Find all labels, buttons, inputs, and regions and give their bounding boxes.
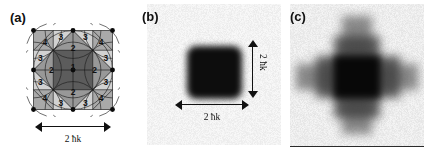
- order-label-2: 2: [92, 65, 97, 75]
- order-label-3: 3: [103, 77, 108, 87]
- diffraction-core-c: [334, 56, 380, 98]
- momentum-space-tiling-diagram: 12222333333334444: [26, 23, 120, 117]
- panel-b: (b) 2 ħk 2 ħk: [145, 0, 286, 158]
- scale-bar-a: 2 ħk: [35, 122, 111, 150]
- panel-c-label: (c): [290, 9, 306, 24]
- arrow-shaft: [181, 104, 243, 105]
- tiling-svg: 12222333333334444: [26, 23, 120, 117]
- scale-bar-a-arrow: [35, 122, 111, 132]
- panel-b-label: (b): [142, 9, 159, 24]
- order-label-3: 3: [58, 98, 63, 108]
- order-label-3: 3: [83, 32, 88, 42]
- order-label-3: 3: [103, 53, 108, 63]
- order-label-3: 3: [83, 98, 88, 108]
- arrow-shaft: [252, 46, 253, 92]
- order-label-3: 3: [58, 32, 63, 42]
- arrow-head-right-icon: [242, 100, 249, 110]
- scale-bar-b-vertical-label: 2 ħk: [258, 54, 268, 71]
- order-label-2: 2: [49, 65, 54, 75]
- panel-c: (c): [286, 0, 427, 158]
- arrow-head-down-icon: [248, 91, 258, 98]
- scale-bar-a-label: 2 ħk: [35, 134, 111, 144]
- scale-bar-b-horizontal: 2 ħk: [175, 100, 249, 126]
- panel-a-label: (a): [10, 10, 26, 25]
- panel-a: (a): [0, 0, 145, 158]
- order-label-3: 3: [38, 53, 43, 63]
- figure-container: (a): [0, 0, 427, 158]
- order-label-4: 4: [99, 37, 104, 47]
- order-label-2: 2: [71, 43, 76, 53]
- scale-bar-b-vertical: 2 ħk: [245, 40, 261, 98]
- order-label-3: 3: [38, 77, 43, 87]
- order-label-4: 4: [43, 93, 48, 103]
- scale-bar-b-arrow: [175, 100, 249, 110]
- arrow-shaft: [41, 126, 105, 127]
- absorption-image-c: [290, 4, 424, 147]
- condensate-cloud-b: [187, 46, 242, 99]
- arrow-head-right-icon: [104, 122, 111, 132]
- order-label-1: 1: [71, 62, 76, 72]
- scale-bar-b-horizontal-label: 2 ħk: [175, 112, 249, 122]
- order-label-4: 4: [43, 37, 48, 47]
- order-label-4: 4: [99, 93, 104, 103]
- order-label-2: 2: [71, 87, 76, 97]
